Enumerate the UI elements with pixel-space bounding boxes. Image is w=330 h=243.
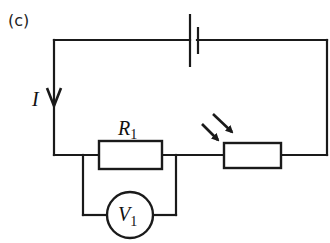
panel-label: (c) xyxy=(8,11,29,30)
ldr-icon xyxy=(224,143,281,168)
circuit-svg: (c) I R xyxy=(0,0,330,243)
resistor-r1-label: R1 xyxy=(117,117,137,142)
circuit-diagram: (c) I R xyxy=(0,0,330,243)
current-label: I xyxy=(31,88,40,110)
light-arrows-icon xyxy=(202,114,232,140)
resistor-r1-icon xyxy=(99,141,162,169)
